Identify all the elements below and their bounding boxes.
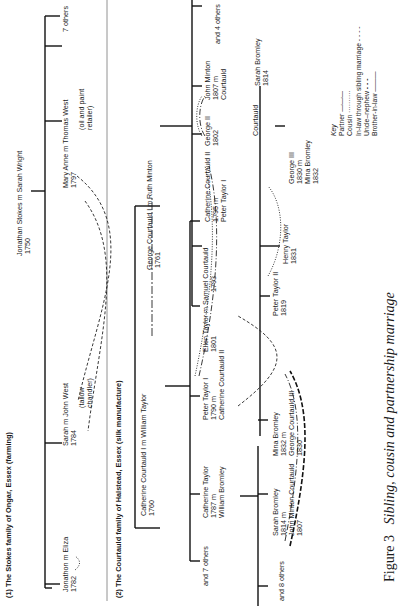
stokes-parents: Jonathan Stokes m Sarah Wright 1750 [16,151,32,256]
john-minton-courtauld: John Minton 1807 m Courtauld [204,61,228,100]
legend-uncle-nephew: Uncle–nephew - - - [363,26,371,136]
catherine-taylor: Catherine Taylor 1787 m William Bromley [202,466,226,518]
ellen-samuel: Ellen Taylor m Samuel Courtauld 1801 [202,247,218,352]
samuel-year: 1793 [210,276,218,292]
legend: Key Partner —·—·— Cousin ·········· In-l… [330,26,379,136]
legend-inlaw: In-law through sibling marriage - - - - [355,26,363,136]
legend-brother-in-law: Brother-in-law ——— [371,26,379,136]
legend-partner: Partner —·—·— [338,26,346,136]
mina-bromley: Mina Bromley 1832 m George Courtauld III… [272,391,304,456]
stokes-child-jonathon: Jonathon m Eliza 1782 [62,537,78,592]
george-courtauld-i: George Courtauld I m Ruth Minton 1761 [146,160,162,270]
courtauld-label: Courtauld [252,105,260,136]
courtauld-child-others: and 4 others [214,4,222,44]
legend-cousin: Cousin ·········· [346,26,354,136]
george-ii: George II 1802 [204,116,220,146]
stokes-heading: (1) The Stokes family of Ongar, Essex (f… [4,432,13,598]
figure-page: (1) The Stokes family of Ongar, Essex (f… [0,0,407,606]
stokes-child-others: 7 others [62,6,70,32]
catherine-courtauld-i: Catherine Courtauld I m William Taylor 1… [140,394,156,517]
stokes-child-sarah: Sarah m John West 1784 (tallow chandler) [62,378,94,446]
george-iii: George III 1830 m Mina Bromley 1832 [288,140,320,184]
peter-taylor-ii: Peter Taylor II 1819 [272,272,288,316]
stokes-child-mary-anne: Mary Anne m Thomas West 1797 (oil and pa… [62,89,94,188]
catherine-courtauld-ii: Catherine Courtauld II 1795 m Peter Tayl… [204,152,228,222]
henry-taylor: Henry Taylor 1831 [282,224,298,264]
peter-taylor-i: Peter Taylor I 1790 m Catherine Courtaul… [202,350,226,420]
sarah-bromley-1814: Sarah Bromley 1814 [254,38,270,86]
taylor-child-others: and 7 others [202,546,210,586]
bromley-child-others: and 8 others [278,561,286,601]
courtauld-heading: (2) The Courtauld family of Halstead, Es… [114,380,123,598]
sarah-bromley: Sarah Bromley 1814 m John Minton Courtau… [272,464,304,536]
figure-caption: Figure 3 Sibling, cousin and partnership… [382,292,398,582]
